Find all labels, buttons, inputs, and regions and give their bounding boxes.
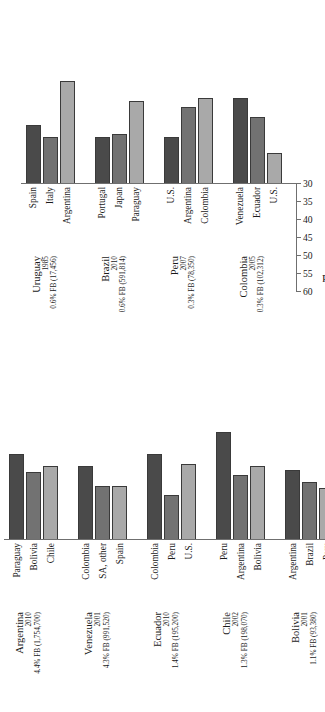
bar — [181, 107, 196, 184]
bar-group: SpainItalyArgentina — [25, 184, 83, 248]
group-foreignborn-label: 1.3% FB (198,070) — [241, 612, 250, 704]
bar-category-label: Spain — [115, 540, 125, 602]
bar — [43, 466, 58, 540]
bar-row: Paraguay — [8, 540, 25, 604]
bar-category-label: Spain — [28, 184, 38, 246]
bar-category-label: Venezuela — [235, 184, 245, 246]
group-header: Ecuador20101.4% FB (195,200) — [152, 612, 180, 704]
axis-tick-label: 35 — [303, 197, 313, 207]
bar-row: Spain — [25, 184, 42, 248]
axis-tick-label: 40 — [303, 215, 313, 225]
bar-row: Brazil — [301, 540, 318, 604]
bar — [250, 466, 265, 540]
bar-row: Italy — [42, 184, 59, 248]
bar-category-label: U.S. — [269, 184, 279, 246]
group-country-label: Peru — [169, 256, 180, 348]
bar-category-label: SA, other — [98, 540, 108, 602]
bar-category-label: Paraguay — [12, 540, 22, 602]
bar-category-label: Argentina — [183, 184, 193, 246]
bar-category-label: Brazil — [305, 540, 315, 602]
axis-tick-label: 30 — [303, 179, 313, 189]
chart-panel-lower: Argentina20104.4% FB (1,754,700)Paraguay… — [0, 356, 325, 712]
bar-category-label: Peru — [322, 540, 325, 602]
bar-group: PeruArgentinaBolivia — [215, 540, 273, 604]
group-foreignborn-label: 0.6% FB (591,814) — [119, 256, 128, 348]
bar-group: ColombiaSA, otherSpain — [77, 540, 135, 604]
bar-row: Colombia — [197, 184, 214, 248]
bar-row: Ecuador — [249, 184, 266, 248]
group-header: Chile20021.3% FB (198,070) — [221, 612, 249, 704]
bar-row: Japan — [111, 184, 128, 248]
bar-row: U.S. — [180, 540, 197, 604]
bar-category-label: Peru — [167, 540, 177, 602]
bar — [95, 486, 110, 540]
group-header: Uruguay19850.6% FB (17,456) — [31, 256, 59, 348]
bar-category-label: Bolivia — [29, 540, 39, 602]
bar — [302, 482, 317, 540]
group-header: Colombia20050.3% FB (102,312) — [238, 256, 266, 348]
bar-category-label: Ecuador — [252, 184, 262, 246]
bar — [164, 137, 179, 184]
bar-category-label: Colombia — [200, 184, 210, 246]
axis-tick-label: 60 — [303, 287, 313, 297]
axis-tick-label: 55 — [303, 269, 313, 279]
bar-row: Argentina — [284, 540, 301, 604]
group-foreignborn-label: 0.6% FB (17,456) — [50, 256, 59, 348]
bar-group: ArgentinaBrazilPeru — [284, 540, 325, 604]
bar — [95, 137, 110, 184]
axis-spine — [296, 183, 297, 292]
bar-row: Peru — [215, 540, 232, 604]
bar-category-label: Argentina — [288, 540, 298, 602]
bar — [216, 432, 231, 540]
bar-category-label: Japan — [114, 184, 124, 246]
bar — [233, 475, 248, 540]
bar-row: Portugal — [94, 184, 111, 248]
bar-row: SA, other — [94, 540, 111, 604]
bar-group: U.S.ArgentinaColombia — [163, 184, 221, 248]
plot-area: Argentina20104.4% FB (1,754,700)Paraguay… — [0, 356, 325, 712]
group-header: Peru20070.3% FB (78,350) — [169, 256, 197, 348]
bar — [112, 486, 127, 540]
chart-panel-upper: Uruguay19850.6% FB (17,456)SpainItalyArg… — [0, 0, 325, 356]
group-header: Brazil20100.6% FB (591,814) — [100, 256, 128, 348]
figure-page: Uruguay19850.6% FB (17,456)SpainItalyArg… — [0, 0, 325, 712]
bar-category-label: Argentina — [62, 184, 72, 246]
bar-category-label: Portugal — [97, 184, 107, 246]
bar-row: Paraguay — [128, 184, 145, 248]
bar-row: Venezuela — [232, 184, 249, 248]
axis-tick-label: 50 — [303, 251, 313, 261]
group-foreignborn-label: 0.3% FB (102,312) — [257, 256, 266, 348]
bar-category-label: Chile — [46, 540, 56, 602]
group-country-label: Brazil — [100, 256, 111, 348]
group-country-label: Uruguay — [31, 256, 42, 348]
bar-baseline — [4, 539, 325, 540]
bar-category-label: Paraguay — [131, 184, 141, 246]
bar — [78, 466, 93, 540]
axis-title: Percentage female — [322, 272, 325, 284]
bar — [164, 495, 179, 540]
bar-row: Bolivia — [249, 540, 266, 604]
bar-row: Argentina — [232, 540, 249, 604]
bar — [198, 98, 213, 184]
bar-category-label: Colombia — [150, 540, 160, 602]
bar-category-label: Peru — [219, 540, 229, 602]
group-header: Venezuela20014.3% FB (991,520) — [83, 612, 111, 704]
bar — [285, 470, 300, 540]
bar-group: ColombiaPeruU.S. — [146, 540, 204, 604]
group-country-label: Colombia — [238, 256, 249, 348]
bar-category-label: U.S. — [184, 540, 194, 602]
bar-row: Argentina — [180, 184, 197, 248]
bar — [43, 137, 58, 184]
bar-category-label: Argentina — [236, 540, 246, 602]
bar-row: Colombia — [146, 540, 163, 604]
bar-category-label: U.S. — [166, 184, 176, 246]
bar-row: Colombia — [77, 540, 94, 604]
bar-row: Peru — [163, 540, 180, 604]
bar-row: U.S. — [163, 184, 180, 248]
bar — [112, 134, 127, 184]
bar-category-label: Italy — [45, 184, 55, 246]
bar — [9, 454, 24, 540]
bar-category-label: Bolivia — [253, 540, 263, 602]
bar-row: Chile — [42, 540, 59, 604]
bar — [26, 472, 41, 540]
